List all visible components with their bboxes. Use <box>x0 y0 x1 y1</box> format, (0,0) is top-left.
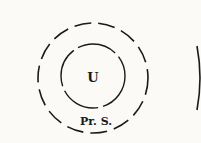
inner-circle-label: U <box>87 70 99 85</box>
outer-circle-label: Pr. S. <box>80 115 112 128</box>
adjacent-circle-arc <box>197 46 200 110</box>
nested-circles-diagram: U Pr. S. <box>0 0 201 143</box>
